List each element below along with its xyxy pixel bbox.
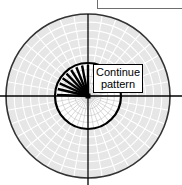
center-marker <box>86 94 91 99</box>
polar-grid-figure: Continue pattern <box>0 0 182 185</box>
top-right-empty-box <box>97 0 182 9</box>
continue-pattern-callout: Continue pattern <box>93 64 143 93</box>
callout-line-1: Continue <box>96 67 140 79</box>
polar-grid-svg <box>0 0 182 185</box>
callout-line-2: pattern <box>101 79 135 91</box>
